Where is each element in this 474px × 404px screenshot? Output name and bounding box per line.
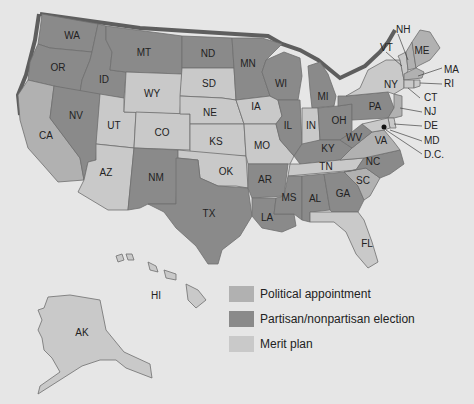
svg-text:ME: ME [415,45,430,56]
svg-text:TX: TX [203,208,216,219]
legend-item-election: Partisan/nonpartisan election [229,308,415,330]
svg-text:NJ: NJ [424,106,436,117]
svg-text:AL: AL [309,193,322,204]
svg-text:D.C.: D.C. [424,149,444,160]
legend-item-merit-plan: Merit plan [229,333,415,355]
svg-text:IN: IN [306,120,316,131]
svg-text:WY: WY [144,88,160,99]
svg-text:WA: WA [64,30,80,41]
svg-text:AK: AK [75,327,89,338]
legend: Political appointment Partisan/nonpartis… [229,283,415,358]
svg-text:OR: OR [51,62,66,73]
svg-text:MN: MN [240,58,256,69]
svg-text:NV: NV [69,110,83,121]
svg-text:PA: PA [369,101,382,112]
svg-text:WV: WV [346,132,362,143]
svg-text:SD: SD [202,78,216,89]
svg-text:UT: UT [107,120,120,131]
svg-text:SC: SC [356,175,370,186]
state-HI-2[interactable] [126,254,134,260]
svg-text:MO: MO [254,140,270,151]
svg-text:CA: CA [39,130,53,141]
state-HI-3[interactable] [148,262,158,272]
svg-text:GA: GA [336,188,351,199]
svg-text:NM: NM [148,172,164,183]
svg-text:KS: KS [209,136,223,147]
state-HI-4[interactable] [164,270,176,280]
state-HI-5[interactable] [186,284,206,308]
dc-marker [382,125,387,130]
election-swatch [229,311,254,327]
svg-text:NY: NY [384,79,398,90]
svg-text:MA: MA [444,64,459,75]
svg-text:AR: AR [258,174,272,185]
state-CT[interactable] [404,80,414,88]
svg-text:OH: OH [332,115,347,126]
svg-text:WI: WI [275,78,287,89]
merit-plan-swatch [229,336,254,352]
svg-text:VA: VA [375,135,388,146]
svg-text:AZ: AZ [100,167,113,178]
svg-text:RI: RI [444,78,454,89]
svg-text:ND: ND [201,48,215,59]
svg-text:IL: IL [284,120,293,131]
svg-text:DE: DE [424,120,438,131]
state-RI[interactable] [414,80,420,88]
svg-text:CT: CT [424,92,437,103]
svg-text:FL: FL [361,238,373,249]
legend-item-political-appointment: Political appointment [229,283,415,305]
political-appointment-swatch [229,286,254,302]
svg-text:NH: NH [396,24,410,35]
svg-text:KY: KY [321,143,335,154]
svg-text:TN: TN [319,161,332,172]
svg-text:NE: NE [203,107,217,118]
svg-text:MT: MT [137,47,151,58]
svg-text:VT: VT [380,42,393,53]
state-HI-1[interactable] [116,254,124,262]
svg-text:ID: ID [99,74,109,85]
svg-text:HI: HI [151,290,161,301]
state-AK[interactable] [38,295,152,394]
svg-text:CO: CO [155,127,170,138]
legend-label: Merit plan [260,337,313,351]
svg-text:MD: MD [424,135,440,146]
svg-text:MI: MI [317,91,328,102]
svg-text:MS: MS [282,192,297,203]
svg-text:NC: NC [366,156,380,167]
svg-text:IA: IA [251,101,261,112]
svg-text:LA: LA [261,212,274,223]
legend-label: Political appointment [260,287,371,301]
svg-text:OK: OK [219,166,234,177]
legend-label: Partisan/nonpartisan election [260,312,415,326]
